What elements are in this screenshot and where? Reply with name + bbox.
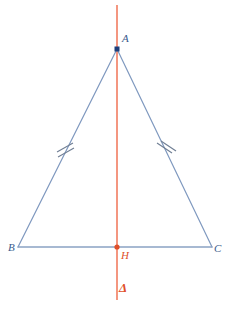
foot-point-h [114,244,119,249]
vertex-label-c: C [214,243,221,254]
tick-mark [57,143,73,152]
vertex-label-h: H [121,250,129,261]
figure-canvas [0,0,232,309]
geometry-figure: A B C H Δ [0,0,232,309]
tick-mark [58,148,74,157]
vertex-label-b: B [8,242,15,253]
axis-label-delta: Δ [119,281,127,294]
segment-ab [18,49,117,247]
vertex-point-a [115,47,120,52]
tick-mark [157,143,172,153]
congruence-ticks-ab [57,143,74,157]
vertex-label-a: A [122,33,129,44]
